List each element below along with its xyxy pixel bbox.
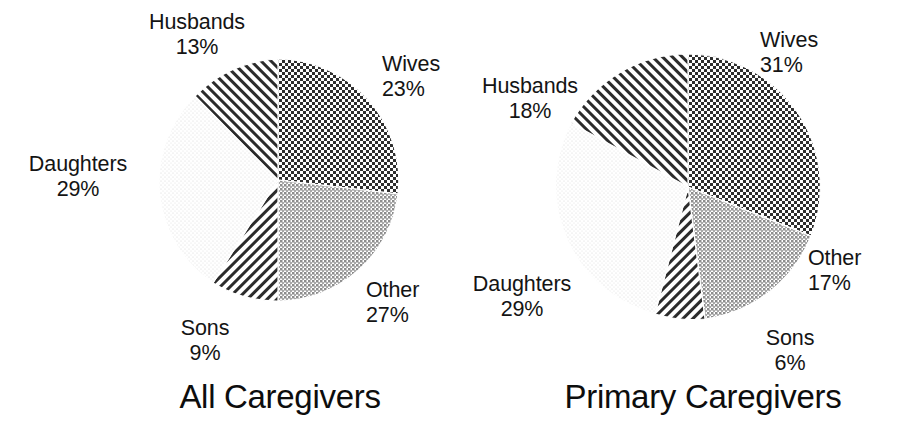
slice-label-husbands-pct: 13% [138, 35, 256, 60]
slice-label-wives-name: Wives [760, 28, 872, 53]
slice-label-daughters-pct: 29% [452, 297, 592, 322]
slice-label-sons-name: Sons [152, 316, 258, 341]
slice-label-daughters: Daughters 29% [8, 152, 148, 202]
slice-label-daughters-name: Daughters [452, 272, 592, 297]
slice-label-husbands-pct: 18% [468, 99, 592, 124]
slice-label-husbands-name: Husbands [138, 10, 256, 35]
slice-label-daughters-pct: 29% [8, 177, 148, 202]
chart-title-primary-caregivers: Primary Caregivers [518, 378, 888, 416]
pie-chart-figure: Husbands 13% Wives 23% Other 27% Sons 9%… [0, 0, 900, 443]
pie-slice-wives[interactable] [278, 59, 399, 194]
slice-label-wives: Wives 31% [760, 28, 872, 78]
slice-label-wives-pct: 31% [760, 53, 872, 78]
slice-label-other-name: Other [808, 246, 900, 271]
slice-label-sons-pct: 9% [152, 341, 258, 366]
slice-label-sons-name: Sons [740, 326, 840, 351]
chart-panel-primary-caregivers: Husbands 18% Wives 31% Other 17% Sons 6%… [455, 0, 900, 443]
slice-label-other: Other 17% [808, 246, 900, 296]
chart-title-all-caregivers: All Caregivers [120, 378, 440, 416]
slice-label-daughters-name: Daughters [8, 152, 148, 177]
slice-label-sons: Sons 9% [152, 316, 258, 366]
slice-label-husbands: Husbands 13% [138, 10, 256, 60]
slice-label-husbands-name: Husbands [468, 74, 592, 99]
slice-label-other-pct: 17% [808, 271, 900, 296]
slice-label-daughters: Daughters 29% [452, 272, 592, 322]
slice-label-sons-pct: 6% [740, 351, 840, 376]
slice-label-husbands: Husbands 18% [468, 74, 592, 124]
slice-label-sons: Sons 6% [740, 326, 840, 376]
chart-panel-all-caregivers: Husbands 13% Wives 23% Other 27% Sons 9%… [0, 0, 455, 443]
